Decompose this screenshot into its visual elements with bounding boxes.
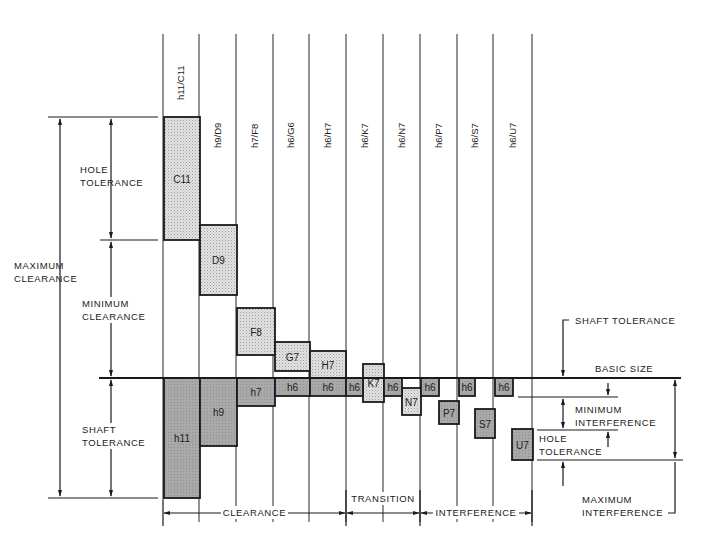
fit-label-h7-f8: h7/F8 (249, 124, 260, 148)
shaft-blocks (164, 378, 513, 498)
fit-label-h6-h7: h6/H7 (322, 123, 333, 148)
label-line: TOLERANCE (80, 176, 143, 189)
range-label-interference: INTERFERENCE (433, 506, 518, 519)
block-label: D9 (212, 255, 225, 266)
block-label: S7 (479, 418, 491, 429)
block-label: H7 (322, 359, 335, 370)
hole-tolerance-label: HOLE TOLERANCE (80, 163, 143, 189)
label-line: MAXIMUM (14, 259, 77, 272)
block-label: F8 (250, 326, 262, 337)
minimum-clearance-label: MINIMUM CLEARANCE (80, 297, 147, 323)
block-label: h6 (287, 382, 298, 393)
block-label: G7 (286, 351, 299, 362)
block-label: h6 (461, 382, 472, 393)
block-label: h9 (213, 407, 224, 418)
label-line: MAXIMUM (582, 493, 663, 506)
block-label: h11 (174, 433, 190, 444)
minimum-interference-label: MINIMUM INTERFERENCE (575, 403, 656, 429)
block-label: C11 (173, 173, 191, 184)
label-line: TOLERANCE (539, 445, 602, 458)
label-line: INTERFERENCE (575, 416, 656, 429)
range-label-transition: TRANSITION (349, 492, 417, 505)
fit-label-h11-c11: h11/C11 (175, 65, 186, 100)
fit-label-h6-g6: h6/G6 (285, 122, 296, 148)
block-label: U7 (516, 439, 529, 450)
block-label: P7 (443, 407, 455, 418)
label-line: MINIMUM (80, 297, 147, 310)
label-line: MINIMUM (575, 403, 656, 416)
right-shaft-tolerance-label: SHAFT TOLERANCE (575, 314, 675, 327)
label-line: CLEARANCE (80, 310, 147, 323)
block-label: h7 (250, 387, 261, 398)
label-line: HOLE (80, 163, 143, 176)
label-line: HOLE (539, 432, 602, 445)
label-line: SHAFT (80, 423, 147, 436)
block-label: h6 (387, 382, 398, 393)
fit-label-h6-n7: h6/N7 (396, 123, 407, 148)
fit-label-h9-d9: h9/D9 (212, 123, 223, 148)
block-label: h6 (424, 382, 435, 393)
maximum-clearance-label: MAXIMUM CLEARANCE (14, 259, 77, 285)
fit-label-h6-k7: h6/K7 (359, 123, 370, 148)
fit-label-h6-s7: h6/S7 (469, 123, 480, 148)
fit-label-h6-u7: h6/U7 (507, 123, 518, 148)
block-label: h6 (349, 382, 360, 393)
block-label: h6 (498, 382, 509, 393)
fit-label-h6-p7: h6/P7 (433, 123, 444, 148)
range-label-clearance: CLEARANCE (221, 506, 288, 519)
block-label: K7 (367, 378, 379, 389)
maximum-interference-label: MAXIMUM INTERFERENCE (582, 493, 663, 519)
left-shaft-tolerance-label: SHAFT TOLERANCE (80, 423, 147, 449)
block-label: h6 (322, 382, 333, 393)
fit-tolerance-diagram (0, 0, 711, 553)
shaft-tolerance-leader (563, 320, 569, 376)
max-interf-leader (668, 462, 675, 513)
block-label: N7 (405, 396, 418, 407)
label-line: TOLERANCE (80, 436, 147, 449)
basic-size-label: BASIC SIZE (595, 362, 653, 375)
label-line: CLEARANCE (14, 272, 77, 285)
right-hole-tolerance-label: HOLE TOLERANCE (539, 432, 602, 458)
label-line: INTERFERENCE (582, 506, 663, 519)
